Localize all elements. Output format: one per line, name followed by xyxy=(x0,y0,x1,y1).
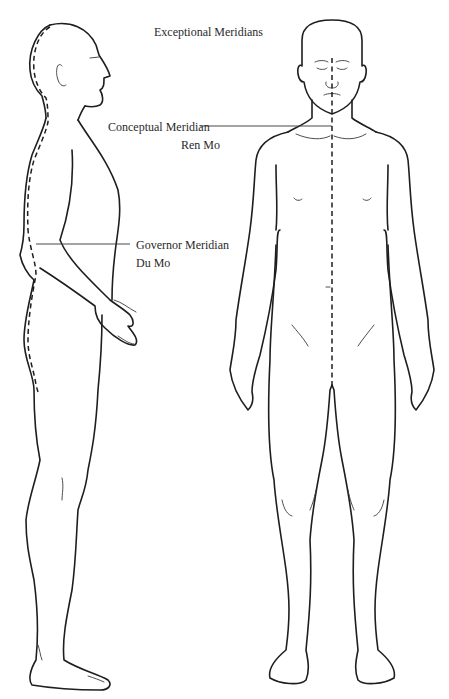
meridian-diagram xyxy=(0,0,449,699)
front-view-figure xyxy=(200,20,434,684)
side-view-figure xyxy=(20,24,137,690)
